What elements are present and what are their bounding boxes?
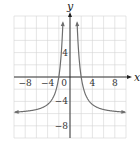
x-tick-label: 8 xyxy=(112,78,118,88)
y-tick-label: −8 xyxy=(55,121,69,131)
x-tick-label: 0 xyxy=(61,78,67,88)
hyperbola-graph: −8−40484−4−8 x y xyxy=(0,0,140,144)
y-axis-label: y xyxy=(66,0,74,13)
x-axis-label: x xyxy=(134,71,140,84)
x-axis-arrow-icon xyxy=(127,75,132,79)
curve-arrow-icon xyxy=(14,110,19,114)
curve-arrow-icon xyxy=(75,21,79,26)
curve-arrow-icon xyxy=(121,110,126,114)
y-tick-label: 4 xyxy=(62,48,68,58)
x-tick-label: −8 xyxy=(19,78,33,88)
right-branch-curve xyxy=(77,23,125,112)
curve-arrow-icon xyxy=(61,21,65,26)
x-tick-label: 4 xyxy=(90,78,96,88)
x-tick-label: −4 xyxy=(41,78,55,88)
y-tick-label: −4 xyxy=(55,96,69,106)
